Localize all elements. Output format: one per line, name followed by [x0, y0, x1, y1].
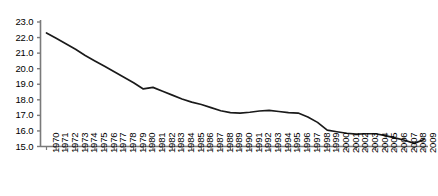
y-axis-tick-label: 21.0 — [0, 48, 34, 58]
y-axis-tick-label: 22.0 — [0, 33, 34, 43]
x-axis-tick-label: 2009 — [428, 132, 438, 152]
y-axis-tick-label: 15.0 — [0, 142, 34, 152]
y-axis — [37, 20, 41, 147]
y-axis-tick-label: 19.0 — [0, 79, 34, 89]
y-axis-tick-label: 17.0 — [0, 110, 34, 120]
y-axis-tick-label: 23.0 — [0, 17, 34, 27]
y-axis-tick-label: 20.0 — [0, 64, 34, 74]
y-axis-tick-label: 18.0 — [0, 95, 34, 105]
y-axis-tick-label: 16.0 — [0, 126, 34, 136]
data-series-line — [47, 33, 425, 144]
